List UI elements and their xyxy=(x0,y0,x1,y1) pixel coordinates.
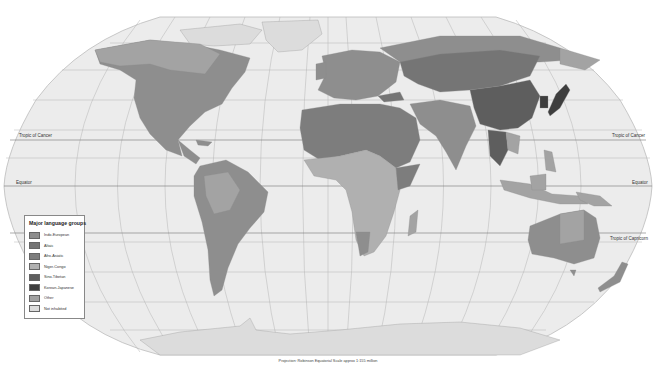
legend-label: Not inhabited xyxy=(44,307,66,311)
equator-label-right: Equator xyxy=(632,180,648,185)
australia-aboriginal xyxy=(560,210,584,244)
legend-label: Indo-European xyxy=(44,233,69,237)
legend-title: Major language groups xyxy=(29,220,80,226)
legend-item: Korean-Japanese xyxy=(29,283,80,294)
legend-item: Not inhabited xyxy=(29,304,80,315)
legend-label: Afro-Asiatic xyxy=(44,254,63,258)
legend-label: Altaic xyxy=(44,244,53,248)
projection-note: Projection: Robinson Equatorial Scale ap… xyxy=(0,359,656,363)
legend-swatch xyxy=(29,284,40,291)
tropic-of-capricorn-label-right: Tropic of Capricorn xyxy=(610,236,648,241)
tropic-of-cancer-label-left: Tropic of Cancer xyxy=(19,133,52,138)
legend-swatch xyxy=(29,295,40,302)
world-map xyxy=(0,0,656,366)
legend-item: Sino-Tibetan xyxy=(29,272,80,283)
tropic-of-cancer-label-right: Tropic of Cancer xyxy=(612,133,645,138)
borneo xyxy=(530,174,546,190)
legend-label: Niger-Congo xyxy=(44,265,66,269)
legend-swatch xyxy=(29,232,40,239)
legend-item: Other xyxy=(29,293,80,304)
legend-label: Other xyxy=(44,296,54,300)
british-isles xyxy=(316,62,326,80)
legend-swatch xyxy=(29,242,40,249)
legend-item: Afro-Asiatic xyxy=(29,251,80,262)
legend: Major language groups Indo-European Alta… xyxy=(24,215,85,319)
legend-swatch xyxy=(29,305,40,312)
korea xyxy=(540,96,548,108)
equator-label-left: Equator xyxy=(16,180,32,185)
legend-label: Korean-Japanese xyxy=(44,286,74,290)
legend-swatch xyxy=(29,253,40,260)
legend-swatch xyxy=(29,274,40,281)
legend-item: Altaic xyxy=(29,241,80,252)
legend-item: Indo-European xyxy=(29,230,80,241)
legend-item: Niger-Congo xyxy=(29,262,80,273)
legend-swatch xyxy=(29,263,40,270)
legend-label: Sino-Tibetan xyxy=(44,275,65,279)
